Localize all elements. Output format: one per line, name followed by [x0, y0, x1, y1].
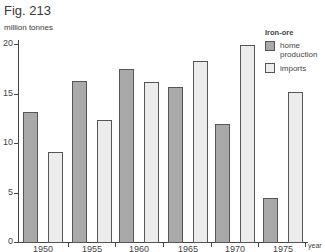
x-tick-label: 1975 [268, 244, 298, 252]
y-tick-label: 5 [2, 187, 13, 197]
x-tick [115, 243, 116, 247]
y-tick-label: 10 [2, 137, 13, 147]
bar-home-production-1955 [72, 81, 87, 243]
bar-imports-1975 [288, 92, 303, 243]
legend-swatch-home-production [265, 41, 275, 51]
bar-imports-1950 [48, 152, 63, 243]
x-tick [163, 243, 164, 247]
legend-label-imports: imports [280, 64, 325, 73]
bar-imports-1970 [240, 45, 255, 243]
y-tick-label: 0 [2, 236, 13, 246]
bar-home-production-1970 [215, 124, 230, 243]
x-tick [211, 243, 212, 247]
y-axis [18, 40, 19, 242]
y-axis-unit-label: million tonnes [4, 23, 53, 32]
bar-home-production-1960 [119, 69, 134, 243]
legend-title: Iron-ore [265, 28, 293, 37]
bar-home-production-1965 [168, 87, 183, 243]
x-tick-label: 1965 [173, 244, 203, 252]
bar-imports-1960 [144, 82, 159, 243]
y-tick [14, 193, 18, 194]
figure-title: Fig. 213 [4, 3, 51, 18]
y-tick [14, 44, 18, 45]
x-tick-label: 1960 [124, 244, 154, 252]
x-tick-label: 1955 [77, 244, 107, 252]
x-tick [305, 243, 306, 247]
bar-home-production-1950 [23, 112, 38, 243]
x-tick [68, 243, 69, 247]
y-tick [14, 94, 18, 95]
bar-imports-1965 [193, 61, 208, 243]
x-axis-unit-label: year [308, 242, 322, 249]
bar-imports-1955 [97, 120, 112, 243]
legend-swatch-imports [265, 63, 275, 73]
x-tick [258, 243, 259, 247]
legend-label-home-production: home production [280, 41, 325, 59]
y-tick-label: 15 [2, 88, 13, 98]
x-tick-label: 1970 [220, 244, 250, 252]
y-tick [14, 143, 18, 144]
y-tick [14, 242, 18, 243]
bar-home-production-1975 [263, 198, 278, 243]
y-tick-label: 20 [2, 38, 13, 48]
x-tick-label: 1950 [28, 244, 58, 252]
